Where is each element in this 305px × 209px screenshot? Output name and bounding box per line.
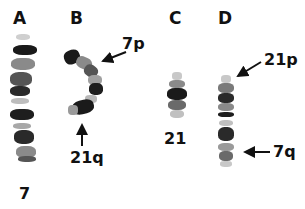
annotation-21q: 21q — [70, 150, 104, 166]
annotation-21p: 21p — [264, 52, 298, 68]
arrow-icon — [238, 62, 261, 76]
annotation-arrows — [0, 0, 305, 209]
annotation-7q: 7q — [273, 144, 296, 160]
annotation-7p: 7p — [122, 36, 145, 52]
arrow-icon — [103, 52, 126, 61]
